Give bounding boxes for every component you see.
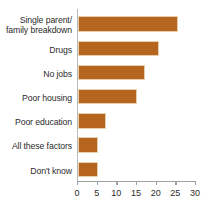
value-axis-tick [77, 181, 78, 185]
bar-row [78, 11, 196, 35]
value-axis-tick-label: 0 [74, 188, 79, 198]
bar [78, 65, 145, 80]
value-axis-tick [175, 181, 176, 185]
bar-row [78, 156, 196, 180]
value-axis-tick [156, 181, 157, 185]
value-axis-tick-label: 10 [111, 188, 121, 198]
value-axis-tick [195, 181, 196, 185]
value-axis-tick-label: 5 [94, 188, 99, 198]
bar [78, 89, 137, 104]
category-label-line: family breakdown [6, 26, 72, 36]
category-label-line: Poor housing [22, 94, 72, 104]
value-axis-tick [116, 181, 117, 185]
plot-area: Single parent/ family breakdown Drugs No… [0, 0, 217, 210]
bar [78, 162, 98, 177]
bar-row [78, 132, 196, 156]
value-axis-tick-label: 25 [170, 188, 180, 198]
bar-chart: Single parent/ family breakdown Drugs No… [0, 0, 217, 210]
bar-row [78, 59, 196, 83]
bar [78, 137, 98, 152]
bar [78, 113, 106, 128]
category-label-line: No jobs [43, 70, 72, 80]
category-label-line: Don't know [30, 167, 72, 177]
category-label-line: All these factors [12, 142, 72, 152]
category-axis-labels: Single parent/ family breakdown Drugs No… [0, 11, 74, 181]
category-label: Poor education [15, 118, 72, 128]
bar-row [78, 35, 196, 59]
bar [78, 41, 159, 56]
category-label: Single parent/ family breakdown [6, 16, 72, 35]
category-label-line: Poor education [15, 118, 72, 128]
bar [78, 16, 178, 31]
category-label: Don't know [30, 167, 72, 177]
value-axis-tick [136, 181, 137, 185]
category-axis-line [77, 9, 78, 181]
category-label: All these factors [12, 142, 72, 152]
value-axis-tick-label: 20 [151, 188, 161, 198]
category-label-line: Drugs [49, 46, 72, 56]
value-axis-tick [97, 181, 98, 185]
category-label: Poor housing [22, 94, 72, 104]
bar-row [78, 84, 196, 108]
category-label: Drugs [49, 46, 72, 56]
bar-row [78, 108, 196, 132]
value-axis-tick-label: 30 [190, 188, 200, 198]
category-label: No jobs [43, 70, 72, 80]
value-axis-tick-label: 15 [131, 188, 141, 198]
bar-series [78, 11, 196, 181]
